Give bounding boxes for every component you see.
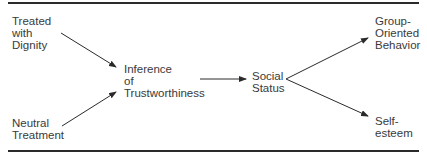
arrow-status-to-group-behavior <box>286 38 368 79</box>
bottom-rule <box>8 150 419 152</box>
arrow-dignity-to-inference <box>61 33 116 67</box>
arrow-neutral-to-inference <box>62 92 116 126</box>
arrow-status-to-self-esteem <box>286 79 368 116</box>
arrows-layer <box>0 0 427 153</box>
diagram-canvas: Treated with Dignity Neutral Treatment I… <box>0 0 427 153</box>
